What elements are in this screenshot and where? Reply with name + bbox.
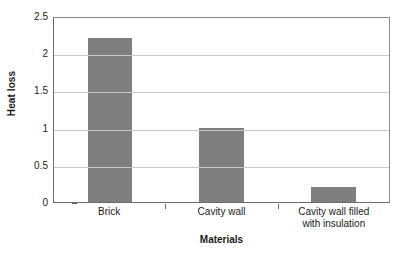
y-axis-tick-label: 0.5 <box>20 161 48 171</box>
gridline <box>54 55 389 56</box>
y-axis-title: Heat loss <box>6 59 17 129</box>
x-axis-title: Materials <box>53 234 390 245</box>
y-axis-tick-label: 2.5 <box>20 12 48 22</box>
bar-slot <box>166 18 278 202</box>
y-axis-tick-label: 1.5 <box>20 86 48 96</box>
x-axis-tick-mark <box>278 204 279 209</box>
bar-chart: Heat loss 00.511.522.5 BrickCavity wallC… <box>0 0 407 256</box>
y-axis-tick-label: 0 <box>20 198 48 208</box>
y-axis-tick-label: 2 <box>20 49 48 59</box>
bar-slot <box>54 18 166 202</box>
x-axis-category-label: Cavity wall <box>165 206 277 230</box>
gridline <box>54 130 389 131</box>
bar-slot <box>277 18 389 202</box>
bar <box>88 38 133 202</box>
x-axis-category-labels: BrickCavity wallCavity wall filled with … <box>53 206 390 230</box>
bar <box>199 128 244 202</box>
y-axis-tick-labels: 00.511.522.5 <box>20 17 48 203</box>
y-axis-tick-label: 1 <box>20 124 48 134</box>
gridline <box>54 167 389 168</box>
x-axis-category-label: Brick <box>53 206 165 230</box>
bar <box>311 187 356 202</box>
y-axis-tick-mark <box>72 203 77 204</box>
x-axis-tick-mark <box>165 204 166 209</box>
gridline <box>54 92 389 93</box>
x-axis-category-label: Cavity wall filled with insulation <box>278 206 390 230</box>
bar-group <box>54 18 389 202</box>
plot-area <box>53 17 390 203</box>
